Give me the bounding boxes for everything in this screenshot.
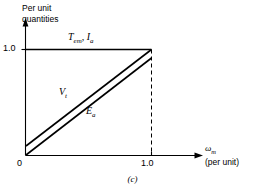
series-label-vt: Vt <box>59 86 67 100</box>
x-axis <box>26 153 204 159</box>
chart-figure: Per unit quantities ωm (per unit) 1.0 0 … <box>0 0 265 196</box>
series-label-vt-sub: t <box>65 92 67 100</box>
y-axis-label: Per unit quantities <box>22 3 58 24</box>
x-axis-arrowhead <box>195 153 204 159</box>
y-axis <box>23 18 29 156</box>
y-tick-label-1.0: 1.0 <box>3 43 16 53</box>
y-axis-label-line2: quantities <box>22 14 58 25</box>
x-axis-label-subscript: m <box>211 148 216 155</box>
y-axis-label-line1: Per unit <box>22 3 58 14</box>
series-label-ea-sub: a <box>92 111 96 119</box>
x-tick-label-0: 0 <box>17 158 22 168</box>
x-axis-label-units: (per unit) <box>205 157 239 168</box>
x-axis-label-symbol: ωm <box>205 143 239 157</box>
series-label-ea: Ea <box>86 105 96 119</box>
series-label-tem-sub: em <box>74 37 82 45</box>
x-tick-label-1.0: 1.0 <box>141 158 154 168</box>
series-label-ia-sub: a <box>90 37 94 45</box>
series-line-vt <box>26 50 152 147</box>
figure-caption: (c) <box>0 174 265 184</box>
x-axis-label: ωm (per unit) <box>205 143 239 168</box>
series-label-tem-ia: Tem, Ia <box>68 31 94 45</box>
